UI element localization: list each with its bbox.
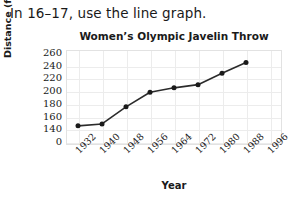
data-point bbox=[172, 85, 177, 90]
data-point bbox=[76, 123, 81, 128]
y-axis-tick-labels: 2602402202001801601400 bbox=[24, 50, 64, 145]
exercise-instruction: In 16–17, use the line graph. bbox=[10, 5, 207, 21]
y-axis-tick: 200 bbox=[43, 86, 62, 96]
x-axis-label: Year bbox=[66, 180, 282, 191]
data-point bbox=[148, 90, 153, 95]
data-point bbox=[244, 60, 249, 65]
line-graph-figure: Women’s Olympic Javelin Throw Distance (… bbox=[0, 28, 303, 206]
y-axis-tick: 160 bbox=[43, 112, 62, 122]
y-axis-tick: 140 bbox=[43, 124, 62, 134]
chart-title: Women’s Olympic Javelin Throw bbox=[66, 30, 282, 42]
data-series bbox=[66, 50, 282, 145]
x-axis-tick-labels: 193219401948195619641972198019881996 bbox=[66, 146, 282, 182]
y-axis-tick: 240 bbox=[43, 61, 62, 71]
y-axis-label: Distance (ft) bbox=[2, 0, 13, 58]
y-axis-tick: 220 bbox=[43, 73, 62, 83]
data-point bbox=[220, 71, 225, 76]
data-point bbox=[196, 82, 201, 87]
y-axis-tick: 0 bbox=[56, 137, 62, 147]
data-point bbox=[100, 121, 105, 126]
y-axis-tick: 180 bbox=[43, 99, 62, 109]
data-point bbox=[124, 104, 129, 109]
y-axis-tick: 260 bbox=[43, 48, 62, 58]
